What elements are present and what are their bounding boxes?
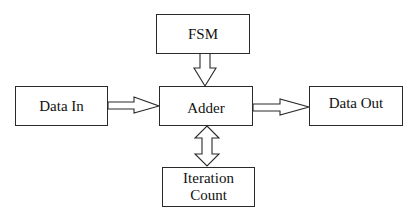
fsm-block: FSM bbox=[156, 14, 250, 54]
iteration-count-block: Iteration Count bbox=[162, 167, 255, 207]
data-out-label: Data Out bbox=[329, 95, 384, 118]
datain-to-adder-arrow bbox=[108, 97, 159, 113]
data-out-block: Data Out bbox=[309, 86, 403, 126]
iteration-count-label: Iteration Count bbox=[183, 170, 234, 204]
adder-iteration-bidirectional-arrow bbox=[195, 126, 219, 166]
adder-label: Adder bbox=[187, 96, 225, 117]
adder-block: Adder bbox=[159, 86, 253, 126]
data-in-block: Data In bbox=[15, 86, 108, 126]
block-diagram: FSM Data In Adder Data Out Iteration Cou… bbox=[0, 0, 416, 220]
data-in-label: Data In bbox=[39, 98, 84, 115]
adder-to-dataout-arrow bbox=[253, 99, 309, 115]
fsm-label: FSM bbox=[188, 26, 218, 43]
fsm-to-adder-arrow bbox=[194, 53, 216, 86]
